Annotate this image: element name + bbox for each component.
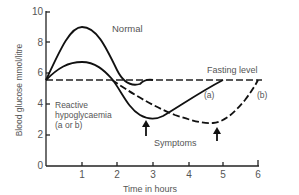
label-normal: Normal [112,23,143,34]
y-tick-8: 8 [37,37,43,48]
y-tick-labels: 10 8 6 4 2 0 [32,6,44,171]
label-fasting-level: Fasting level [207,65,258,75]
label-a: (a) [204,90,215,100]
y-tick-2: 2 [37,129,43,140]
normal-curve [46,27,153,85]
symptom-arrow-b [213,127,221,141]
x-tick-labels: 1 2 3 4 5 6 [79,169,261,180]
label-reactive-line2: hypoglycaemia [55,110,112,120]
symptom-arrow-a [142,120,150,136]
y-tick-4: 4 [37,98,43,109]
label-symptoms: Symptoms [154,138,197,148]
axes [46,11,259,166]
y-tick-0: 0 [37,160,43,171]
y-axis-title: Blood glucose mmol/litre [14,43,24,136]
label-b: (b) [257,90,268,100]
y-tick-10: 10 [32,6,44,17]
x-tick-4: 4 [186,169,192,180]
x-tick-6: 6 [255,169,261,180]
label-reactive-line1: Reactive [55,100,88,110]
y-tick-6: 6 [37,67,43,78]
x-tick-1: 1 [79,169,85,180]
x-axis-title: Time in hours [123,184,178,194]
label-reactive-line3: (a or b) [55,120,83,130]
x-tick-5: 5 [220,169,226,180]
x-tick-2: 2 [114,169,120,180]
blood-glucose-chart: 10 8 6 4 2 0 1 2 3 4 5 6 Time in hours B… [0,0,299,195]
x-tick-3: 3 [150,169,156,180]
